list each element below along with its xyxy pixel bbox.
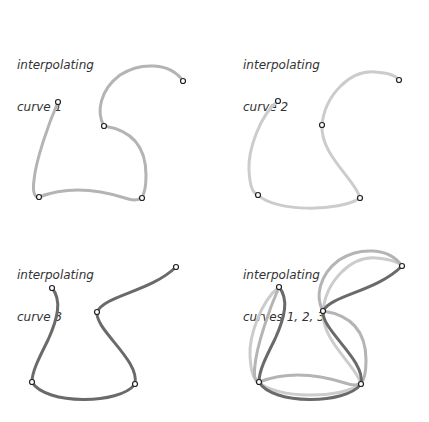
- panel-2-curve: [249, 72, 399, 208]
- panel-4-curve-2: [250, 258, 402, 395]
- panel-1-points: [37, 79, 186, 201]
- panel-2-points: [256, 78, 402, 201]
- diagram-canvas: [0, 0, 429, 422]
- panel-1-curve: [33, 66, 183, 200]
- panel-3-points: [30, 265, 179, 387]
- panel-4-curve-1: [254, 251, 402, 385]
